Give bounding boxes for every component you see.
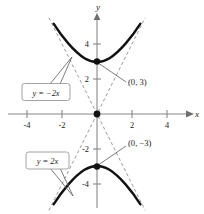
upper-point-label: (0, 3) (128, 77, 147, 87)
x-axis-arrow-icon (186, 111, 194, 118)
lower-callout-label: y = 2x (36, 157, 59, 166)
upper-point-leader-line (99, 64, 126, 83)
y-tick-label-neg2: -2 (82, 145, 89, 154)
upper-callout-leader-b (60, 57, 72, 84)
upper-callout-leader-a (50, 57, 72, 84)
hyperbola-graph: -4 -2 2 4 4 2 -2 -4 x y (0, 3) (0, −3) y… (0, 0, 204, 214)
y-axis-label: y (95, 2, 100, 12)
hyperbola-figure: -4 -2 2 4 4 2 -2 -4 x y (0, 3) (0, −3) y… (0, 0, 204, 214)
origin-dot (94, 111, 101, 118)
upper-callout-leader-lines (50, 57, 72, 84)
lower-point-label: (0, −3) (128, 138, 152, 148)
x-tick-label-neg2: -2 (59, 121, 66, 130)
y-tick-label-pos2: 2 (85, 75, 89, 84)
lower-point-leader-line (99, 146, 126, 165)
axes-group (8, 13, 194, 208)
x-tick-label-pos4: 4 (165, 121, 170, 130)
x-tick-label-pos2: 2 (130, 121, 134, 130)
upper-callout-label: y = −2x (31, 89, 59, 98)
y-tick-label-pos4: 4 (85, 40, 90, 49)
x-tick-label-neg4: -4 (24, 121, 32, 130)
x-axis-label: x (194, 109, 199, 119)
y-axis-arrow-icon (94, 13, 101, 20)
y-tick-label-neg4: -4 (82, 180, 90, 189)
